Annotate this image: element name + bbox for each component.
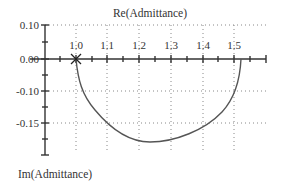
x-tick-label: 1.1 xyxy=(100,39,114,51)
x-tick-label: 1.4 xyxy=(196,39,210,51)
y-tick-label: 0.10 xyxy=(20,19,40,31)
admittance-curve xyxy=(76,59,241,142)
x-tick-labels: 1.0 1.1 1.2 1.3 1.4 1.5 xyxy=(69,39,241,51)
admittance-chart: Re(Admittance) 1.0 1.1 1.2 1.3 1.4 1.5 0… xyxy=(0,0,282,188)
y-tick-label: -0.15 xyxy=(16,117,39,129)
y-tick-label: 0.00 xyxy=(20,53,40,65)
x-tick-label: 1.3 xyxy=(164,39,178,51)
x-tick-label: 1.2 xyxy=(132,39,146,51)
y-tick-label: -0.10 xyxy=(16,85,39,97)
y-axis-label: Im(Admittance) xyxy=(18,168,92,181)
y-axis xyxy=(41,25,49,155)
x-tick-label: 1.0 xyxy=(69,39,83,51)
x-axis xyxy=(30,55,266,63)
y-tick-labels: 0.10 0.00 -0.10 -0.15 xyxy=(16,19,39,129)
chart-title: Re(Admittance) xyxy=(113,7,187,20)
x-tick-label: 1.5 xyxy=(227,39,241,51)
